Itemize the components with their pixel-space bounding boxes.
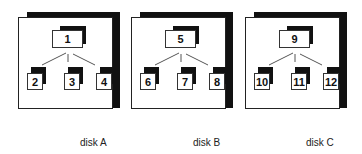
disk-b-panel: 5 6 7 8 bbox=[131, 12, 235, 112]
disk-c-label: disk C bbox=[306, 137, 334, 148]
node-label: 8 bbox=[209, 73, 225, 90]
node-label: 11 bbox=[291, 73, 307, 90]
disk-c-panel: 9 10 11 12 bbox=[245, 12, 349, 112]
node-label: 7 bbox=[177, 73, 193, 90]
node-label: 3 bbox=[64, 73, 80, 90]
node-label: 6 bbox=[140, 73, 156, 90]
node-label: 5 bbox=[165, 30, 196, 48]
node-label: 4 bbox=[96, 73, 112, 90]
node-label: 9 bbox=[279, 30, 310, 48]
disk-a-label: disk A bbox=[80, 137, 107, 148]
node-label: 2 bbox=[27, 73, 43, 90]
disk-b-label: disk B bbox=[193, 137, 220, 148]
node-label: 1 bbox=[52, 30, 83, 48]
node-label: 12 bbox=[323, 73, 339, 90]
disk-a-panel: 1 2 3 4 bbox=[18, 12, 122, 112]
node-label: 10 bbox=[254, 73, 270, 90]
